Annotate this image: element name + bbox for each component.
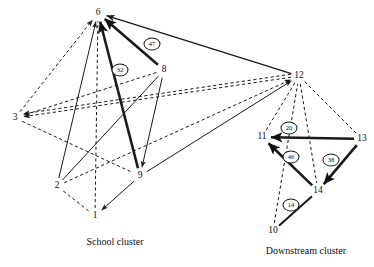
edge-layer — [20, 16, 357, 226]
node-label-13[interactable]: 13 — [357, 134, 367, 144]
edge-label-32: 32 — [112, 64, 129, 77]
edge-2-to-8 — [62, 76, 158, 180]
edge-label-14: 14 — [283, 199, 300, 212]
edge-label-20: 20 — [281, 122, 298, 135]
node-label-11[interactable]: 11 — [257, 132, 266, 142]
node-label-12[interactable]: 12 — [294, 71, 304, 81]
node-label-10[interactable]: 10 — [268, 226, 278, 236]
edge-12-to-13 — [305, 82, 357, 134]
edge-3-to-9 — [22, 121, 132, 172]
edge-3-to-6 — [20, 20, 92, 112]
node-label-6[interactable]: 6 — [96, 8, 101, 18]
node-label-2[interactable]: 2 — [55, 181, 60, 191]
node-label-1[interactable]: 1 — [93, 211, 98, 221]
edge-label-46: 46 — [283, 151, 300, 164]
node-label-9[interactable]: 9 — [138, 171, 143, 181]
edge-9-to-1 — [102, 181, 134, 210]
network-diagram-canvas — [0, 0, 374, 267]
school-cluster-caption: School cluster — [87, 236, 144, 247]
downstream-cluster-caption: Downstream cluster — [266, 245, 346, 256]
edge-9-to-12 — [147, 81, 292, 172]
edge-12-to-3b — [24, 74, 291, 114]
edge-12-to-14 — [300, 84, 316, 183]
node-label-8[interactable]: 8 — [162, 65, 167, 75]
edge-label-47: 47 — [144, 38, 161, 51]
edge-1-to-6 — [95, 21, 98, 208]
node-label-3[interactable]: 3 — [13, 113, 18, 123]
edge-2-to-6 — [59, 22, 96, 178]
edge-2-to-1 — [63, 191, 88, 211]
edge-13-to-11 — [271, 137, 354, 139]
node-label-14[interactable]: 14 — [313, 186, 323, 196]
edge-label-38: 38 — [323, 154, 340, 167]
edge-8-to-3 — [24, 73, 157, 116]
